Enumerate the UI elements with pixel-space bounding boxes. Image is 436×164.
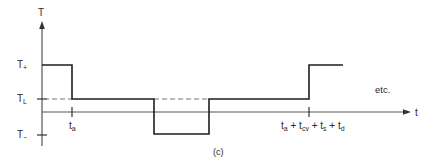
y-axis-label: T: [38, 7, 44, 18]
level-subscript: L: [23, 98, 27, 105]
svg-text:T−: T−: [17, 129, 27, 141]
time-label-ta-tcv-ts-td: ta + tcv + ts + td: [281, 120, 345, 132]
continuation-note: etc.: [375, 84, 390, 95]
figure-caption: (c): [213, 147, 224, 157]
svg-text:TL: TL: [17, 93, 27, 105]
temperature-time-diagram: T t T+ TL T− ta ta + tcv + ts + td: [0, 0, 436, 164]
x-axis-label: t: [415, 107, 418, 118]
svg-text:T+: T+: [17, 59, 27, 71]
level-T-plus: T+: [17, 59, 27, 71]
level-subscript: +: [23, 64, 27, 71]
x-axis: t: [42, 107, 418, 118]
x-axis-arrow-icon: [403, 109, 411, 115]
y-axis: T: [38, 7, 45, 146]
time-label-ta: ta: [69, 120, 76, 132]
y-axis-arrow-icon: [39, 21, 45, 29]
level-subscript: −: [23, 134, 27, 141]
